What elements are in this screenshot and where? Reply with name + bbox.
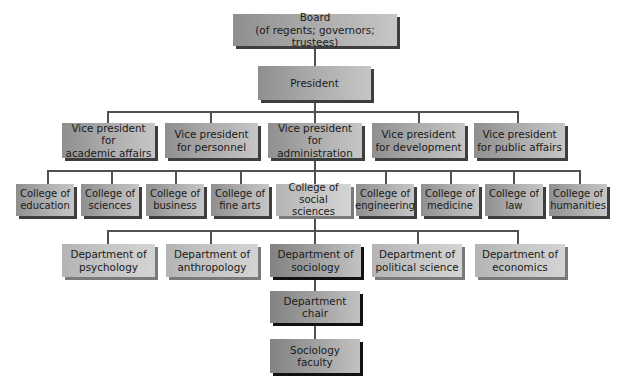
- connector-college4-drop: [240, 170, 242, 184]
- connector-dept2-drop: [210, 230, 212, 244]
- connector-dept-chair: [314, 277, 316, 291]
- connector-chair-faculty: [314, 323, 316, 339]
- connector-vp-horizontal: [107, 111, 519, 113]
- node-college-fine-arts: College of fine arts: [211, 184, 269, 216]
- connector-college2-drop: [111, 170, 113, 184]
- connector-dept4-drop: [417, 230, 419, 244]
- connector-college8-drop: [513, 170, 515, 184]
- node-vp-personnel: Vice president for personnel: [165, 123, 258, 158]
- node-dept-political-science: Department of political science: [372, 244, 462, 277]
- connector-dept3-drop: [314, 230, 316, 244]
- node-dept-sociology: Department of sociology: [270, 244, 361, 277]
- node-college-sciences: College of sciences: [81, 184, 139, 216]
- connector-vp5-drop: [517, 111, 519, 123]
- node-college-law: College of law: [485, 184, 543, 216]
- node-sociology-faculty: Sociology faculty: [270, 339, 360, 373]
- node-college-humanities: College of humanities: [549, 184, 607, 216]
- node-department-chair: Department chair: [270, 291, 360, 323]
- connector-dept1-drop: [107, 230, 109, 244]
- node-dept-anthropology: Department of anthropology: [166, 244, 258, 277]
- connector-college3-drop: [175, 170, 177, 184]
- connector-college7-drop: [450, 170, 452, 184]
- node-dept-psychology: Department of psychology: [62, 244, 155, 277]
- node-college-education: College of education: [16, 184, 74, 216]
- node-college-medicine: College of medicine: [421, 184, 479, 216]
- connector-college6-drop: [385, 170, 387, 184]
- connector-dept-horizontal: [107, 230, 519, 232]
- connector-vp4-drop: [418, 111, 420, 123]
- node-board: Board (of regents; governors; trustees): [233, 14, 397, 46]
- node-president: President: [258, 66, 371, 100]
- node-vp-development: Vice president for development: [372, 123, 465, 158]
- connector-college1-drop: [47, 170, 49, 184]
- node-dept-economics: Department of economics: [475, 244, 565, 277]
- connector-vp2-drop: [210, 111, 212, 123]
- connector-college9-drop: [579, 170, 581, 184]
- node-vp-academic-affairs: Vice president for academic affairs: [62, 123, 155, 158]
- connector-dept5-drop: [517, 230, 519, 244]
- node-college-business: College of business: [146, 184, 204, 216]
- connector-board-president: [314, 46, 316, 66]
- node-college-engineering: College of engineering: [356, 184, 414, 216]
- node-college-social-sciences: College of social sciences: [276, 184, 351, 216]
- node-vp-public-affairs: Vice president for public affairs: [474, 123, 565, 158]
- node-vp-administration: Vice president for administration: [268, 123, 362, 158]
